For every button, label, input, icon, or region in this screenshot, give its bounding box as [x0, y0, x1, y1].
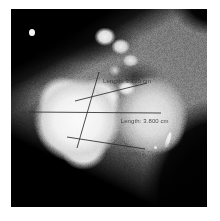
measurement-label-3: Length: 3.76 cm	[119, 149, 164, 157]
measurement-caliper-overlay	[11, 9, 207, 207]
measurement-label-2: Length: 3.800 cm	[121, 117, 169, 125]
caliper-line-1[interactable]	[75, 83, 147, 101]
ct-image-canvas[interactable]: Length: 3.795 cm Length: 3.800 cm Length…	[11, 9, 207, 207]
caliper-line-4[interactable]	[77, 72, 99, 148]
measurement-label-1: Length: 3.795 cm	[103, 77, 151, 85]
caliper-line-2[interactable]	[29, 112, 161, 113]
ct-viewer-viewport: Length: 3.795 cm Length: 3.800 cm Length…	[0, 0, 220, 221]
